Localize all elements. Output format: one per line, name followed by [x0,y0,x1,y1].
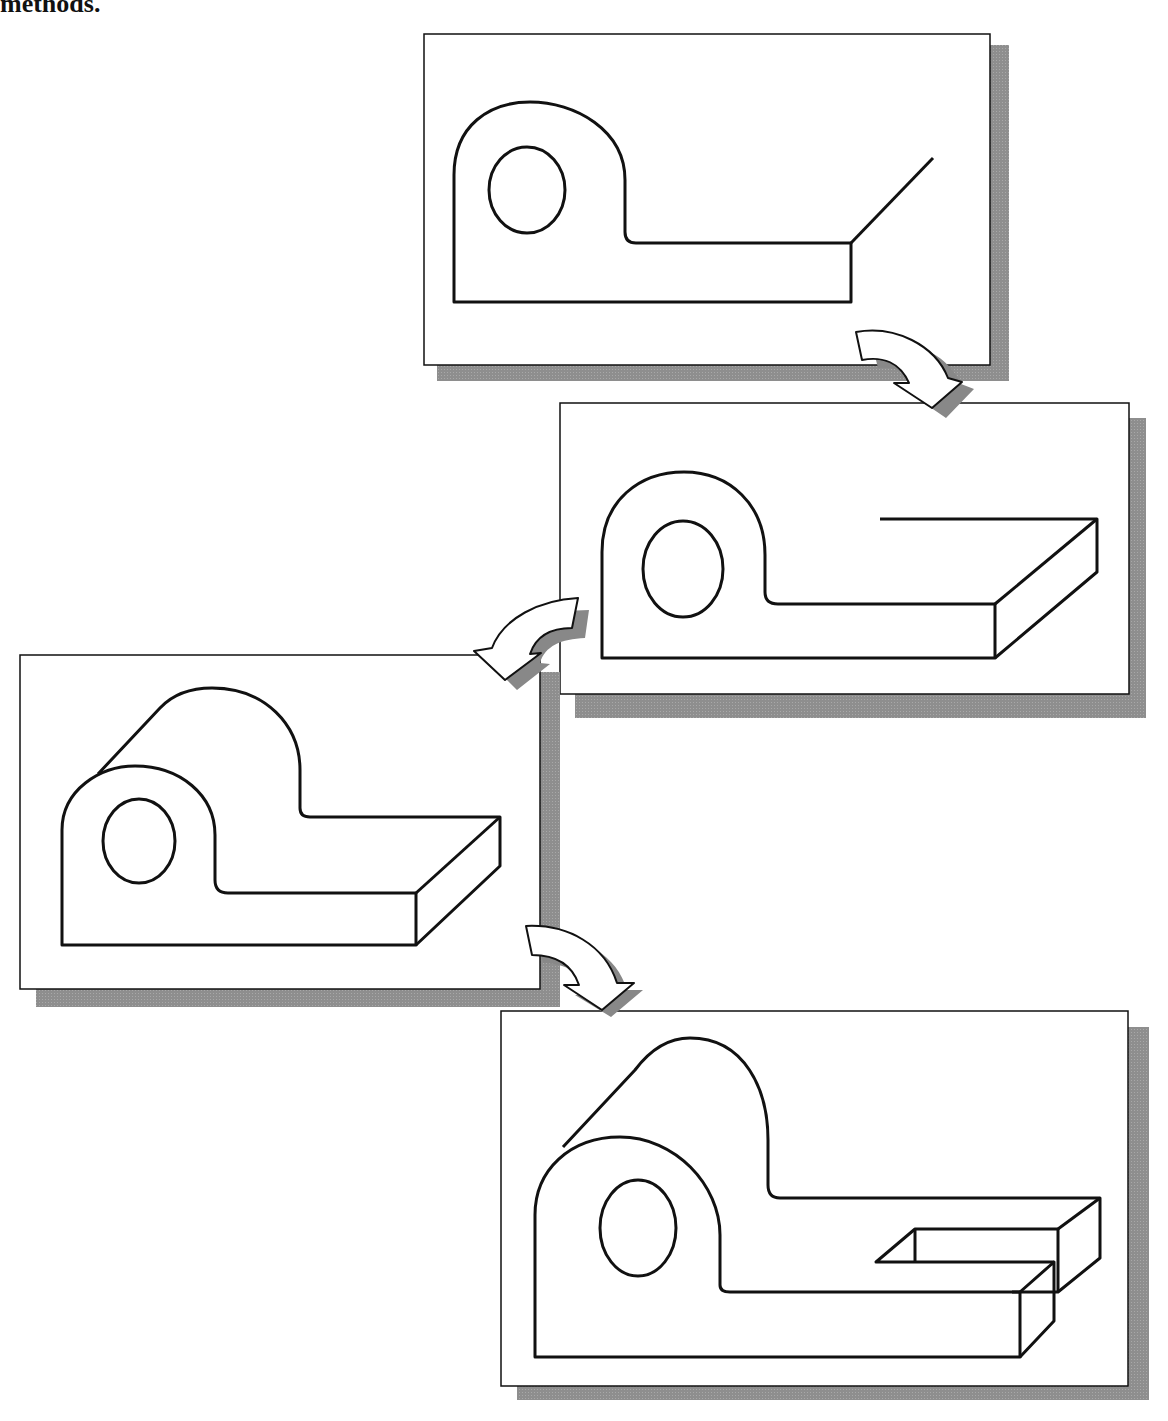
panel-step-2 [560,403,1146,718]
panel-step-1 [424,34,1009,381]
panel-step-3 [20,655,560,1007]
panel-step-4 [501,1011,1149,1400]
